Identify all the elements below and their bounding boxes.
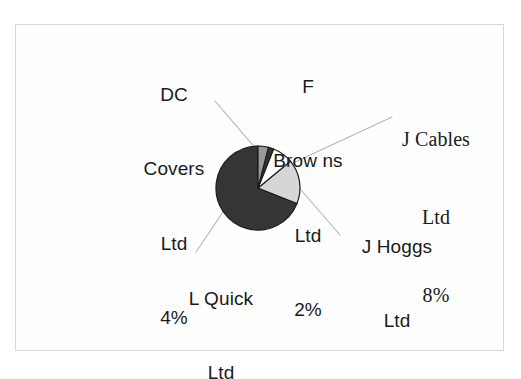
slice-label-l-quick-line1: L Quick [150,287,292,312]
slice-label-j-hoggs-line2: Ltd [336,309,458,334]
slice-label-j-hoggs-line1: J Hoggs [336,235,458,260]
slice-label-l-quick: L Quick Ltd 69% [150,238,292,379]
slice-label-j-hoggs: J Hoggs Ltd 17% [336,186,458,379]
slice-label-l-quick-line2: Ltd [150,361,292,379]
plot-area: DC Covers Ltd 4% F Brow ns Ltd 2% J Cabl… [0,0,521,379]
slice-label-dc-covers-line1: DC [118,83,230,108]
slice-label-f-browns-line2: Brow ns [252,149,364,174]
slice-label-f-browns-line1: F [252,75,364,100]
slice-label-dc-covers-line2: Covers [118,157,230,182]
pie-chart-figure: DC Covers Ltd 4% F Brow ns Ltd 2% J Cabl… [0,0,521,379]
slice-label-j-cables-line1: J Cables [372,126,500,152]
